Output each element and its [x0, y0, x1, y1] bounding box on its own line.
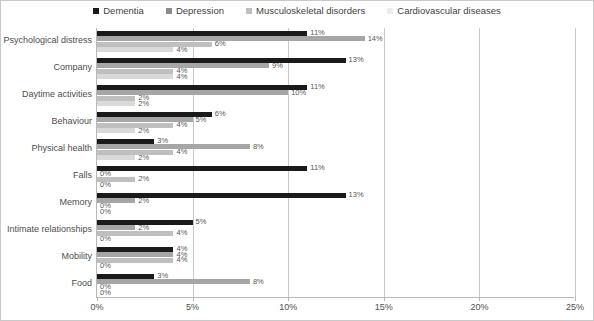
category-group: Mobility4%4%4%0%: [97, 247, 574, 269]
chart-legend: DementiaDepressionMusculoskeletal disord…: [0, 6, 594, 16]
bar[interactable]: [97, 225, 135, 230]
bar[interactable]: [97, 74, 173, 79]
bar-row: 11%: [97, 85, 574, 90]
bar-row: 4%: [97, 150, 574, 155]
bar-row: 6%: [97, 42, 574, 47]
category-group: Memory13%2%0%0%: [97, 193, 574, 215]
bar-row: 14%: [97, 36, 574, 41]
legend-entry[interactable]: Dementia: [93, 6, 144, 16]
bar[interactable]: [97, 69, 173, 74]
bar-row: 0%: [97, 209, 574, 214]
legend-entry[interactable]: Musculoskeletal disorders: [246, 6, 365, 16]
legend-swatch-icon: [166, 8, 172, 14]
bar[interactable]: [97, 252, 173, 257]
x-axis-tick-label: 15%: [375, 302, 393, 312]
bar-value-label: 0%: [100, 289, 111, 297]
y-axis-category-label: Psychological distress: [3, 36, 92, 45]
bar[interactable]: [97, 90, 288, 95]
y-axis-category-label: Food: [71, 279, 92, 288]
y-axis-category-label: Memory: [59, 198, 92, 207]
bar-row: 0%: [97, 182, 574, 187]
bar-row: 13%: [97, 58, 574, 63]
category-group: Psychological distress11%14%6%4%: [97, 31, 574, 53]
category-group: Daytime activities11%10%2%2%: [97, 85, 574, 107]
bar-value-label: 0%: [100, 181, 111, 189]
bar-row: 4%: [97, 47, 574, 52]
x-gridline: [575, 28, 576, 298]
bar-row: 11%: [97, 31, 574, 36]
x-axis-tick: [384, 297, 385, 301]
x-axis-tick: [288, 297, 289, 301]
category-group: Behaviour6%5%4%2%: [97, 112, 574, 134]
bar-value-label: 2%: [138, 127, 149, 135]
bar[interactable]: [97, 166, 307, 171]
plot-area: 0%5%10%15%20%25%Psychological distress11…: [96, 28, 574, 298]
bar[interactable]: [97, 144, 250, 149]
legend-swatch-icon: [93, 8, 99, 14]
x-axis-tick-label: 5%: [186, 302, 199, 312]
bar-row: 0%: [97, 171, 574, 176]
bar-row: 4%: [97, 247, 574, 252]
bar-row: 2%: [97, 101, 574, 106]
x-axis-tick: [193, 297, 194, 301]
bar-row: 2%: [97, 198, 574, 203]
legend-entry[interactable]: Depression: [166, 6, 224, 16]
bar-row: 0%: [97, 204, 574, 209]
bar[interactable]: [97, 247, 173, 252]
bar[interactable]: [97, 128, 135, 133]
bar[interactable]: [97, 96, 135, 101]
bar-value-label: 4%: [176, 73, 187, 81]
bar-value-label: 0%: [100, 235, 111, 243]
bar-chart: DementiaDepressionMusculoskeletal disord…: [0, 0, 594, 321]
bar-row: 8%: [97, 279, 574, 284]
bar[interactable]: [97, 42, 212, 47]
bar[interactable]: [97, 279, 250, 284]
bar-value-label: 2%: [138, 100, 149, 108]
bar-row: 2%: [97, 128, 574, 133]
category-group: Physical health3%8%4%2%: [97, 139, 574, 161]
bar-row: 4%: [97, 74, 574, 79]
bar[interactable]: [97, 58, 346, 63]
bar-value-label: 0%: [100, 208, 111, 216]
bar[interactable]: [97, 101, 135, 106]
x-axis-tick-label: 10%: [279, 302, 297, 312]
legend-entry[interactable]: Cardiovascular diseases: [387, 6, 501, 16]
bar-row: 2%: [97, 96, 574, 101]
x-axis-tick-label: 0%: [90, 302, 103, 312]
legend-label: Cardiovascular diseases: [397, 6, 501, 16]
bar[interactable]: [97, 31, 307, 36]
bar-row: 2%: [97, 177, 574, 182]
bar-row: 0%: [97, 285, 574, 290]
bar[interactable]: [97, 274, 154, 279]
bar-row: 0%: [97, 263, 574, 268]
bar-value-label: 4%: [176, 46, 187, 54]
bar[interactable]: [97, 112, 212, 117]
y-axis-category-label: Company: [53, 63, 92, 72]
bar[interactable]: [97, 85, 307, 90]
bar-row: 2%: [97, 155, 574, 160]
bar[interactable]: [97, 123, 173, 128]
category-group: Company13%9%4%4%: [97, 58, 574, 80]
bar[interactable]: [97, 139, 154, 144]
bar-value-label: 0%: [100, 262, 111, 270]
legend-label: Musculoskeletal disorders: [256, 6, 365, 16]
bar[interactable]: [97, 193, 346, 198]
legend-label: Depression: [176, 6, 224, 16]
bar-row: 3%: [97, 139, 574, 144]
bar[interactable]: [97, 36, 365, 41]
bar[interactable]: [97, 155, 135, 160]
bar-row: 4%: [97, 69, 574, 74]
bar-row: 11%: [97, 166, 574, 171]
bar-row: 4%: [97, 231, 574, 236]
y-axis-category-label: Intimate relationships: [7, 225, 92, 234]
bar-value-label: 2%: [138, 154, 149, 162]
bar[interactable]: [97, 47, 173, 52]
category-group: Intimate relationships5%2%4%0%: [97, 220, 574, 242]
y-axis-category-label: Falls: [73, 171, 92, 180]
bar-row: 8%: [97, 144, 574, 149]
x-axis-tick-label: 25%: [566, 302, 584, 312]
bar[interactable]: [97, 150, 173, 155]
x-axis-tick: [575, 297, 576, 301]
bar-row: 4%: [97, 252, 574, 257]
category-group: Food3%8%0%0%: [97, 274, 574, 296]
